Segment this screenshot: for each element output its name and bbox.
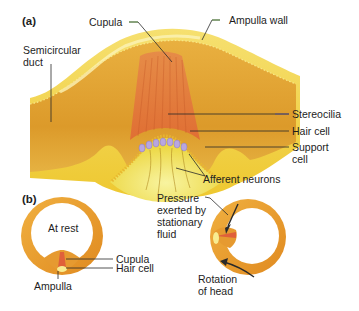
panel-label-b: (b)	[22, 193, 37, 205]
panel-b-ring-rotating	[205, 197, 286, 277]
label-rotation-of-head: Rotation of head	[198, 273, 237, 297]
label-ampulla: Ampulla	[34, 280, 72, 292]
label-support-cell: Support cell	[292, 141, 329, 165]
label-ampulla-wall: Ampulla wall	[229, 14, 288, 26]
label-afferent-neurons: Afferent neurons	[203, 173, 280, 185]
label-stereocilia: Stereocilia	[292, 108, 341, 120]
label-cupula: Cupula	[89, 16, 122, 28]
label-hair-cell: Hair cell	[292, 125, 330, 137]
panel-label-a: (a)	[22, 15, 36, 27]
label-pressure-fluid: Pressure exerted by stationary fluid	[157, 192, 206, 240]
label-semicircular-duct: Semicircular duct	[23, 44, 81, 68]
diagram-stage: (a) (b) Cupula Ampulla wall Semicircular…	[0, 0, 359, 311]
panel-b-ring-at-rest	[21, 197, 113, 279]
label-b-hair-cell: Hair cell	[116, 262, 154, 274]
label-at-rest: At rest	[48, 222, 78, 234]
